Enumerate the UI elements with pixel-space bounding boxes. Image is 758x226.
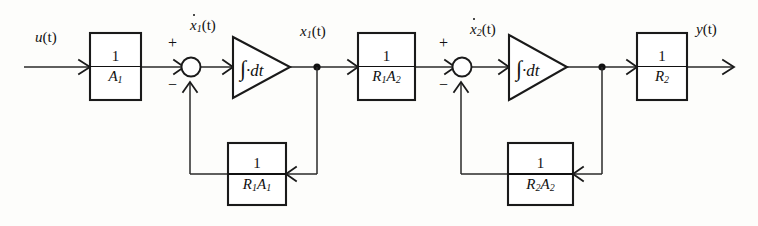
fraction-numerator: 1 <box>250 155 264 173</box>
fraction-denominator: R2 <box>652 67 672 85</box>
wire-gain1-to-sum1 <box>141 60 184 74</box>
block-label-feedback-1-over-R1A1: 1 R1A1 <box>228 143 286 205</box>
fraction-numerator: 1 <box>109 48 123 66</box>
fraction-denominator: R2A2 <box>523 175 557 193</box>
integrator-1-label: ∫·dt <box>240 56 264 82</box>
summing-junction-2-plus-sign: + <box>439 34 448 52</box>
wire-sum2-to-integrator2 <box>470 60 509 74</box>
signal-label-x2-dot: x2(t) <box>470 22 496 38</box>
wire-sum1-to-integrator1 <box>199 60 233 74</box>
block-diagram: u(t) x1(t) x1(t) x2(t) y(t) + − + − ∫·dt… <box>0 0 758 226</box>
fraction-denominator: R1A1 <box>240 175 274 193</box>
fraction-numerator: 1 <box>655 48 669 66</box>
block-label-gain-1-over-A1: 1 A1 <box>90 33 141 100</box>
block-label-feedback-1-over-R2A2: 1 R2A2 <box>508 143 573 205</box>
summing-junction-2-shape <box>453 58 472 77</box>
fraction-denominator: A1 <box>105 67 125 85</box>
wire-gain2-to-sum2 <box>415 60 455 74</box>
fraction-numerator: 1 <box>380 48 394 66</box>
wire-input-to-gain1 <box>24 60 90 74</box>
block-label-gain-1-over-R1A2: 1 R1A2 <box>358 33 415 100</box>
fraction-numerator: 1 <box>534 155 548 173</box>
signal-label-output: y(t) <box>696 22 717 37</box>
summing-junction-1-minus-sign: − <box>168 76 177 94</box>
summing-junction-1-shape <box>182 58 201 77</box>
signal-label-x1: x1(t) <box>300 24 326 40</box>
block-label-gain-1-over-R2: 1 R2 <box>637 33 687 100</box>
integrator-2-label: ∫·dt <box>516 56 540 82</box>
summing-junction-1-plus-sign: + <box>168 34 177 52</box>
wire-gain3-to-output <box>687 60 734 74</box>
summing-junction-2-minus-sign: − <box>439 76 448 94</box>
wire-integrator1-to-gain2 <box>290 60 358 74</box>
signal-label-input: u(t) <box>35 30 57 45</box>
signal-label-x1-dot: x1(t) <box>190 18 216 34</box>
fraction-denominator: R1A2 <box>369 67 403 85</box>
